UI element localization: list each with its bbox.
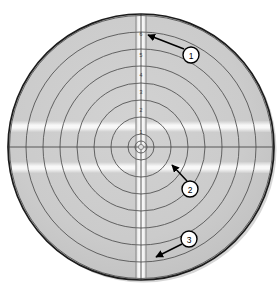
tick-label-3: 3	[140, 89, 143, 95]
tick-label-1: 1	[140, 129, 143, 135]
target-disc-figure: 7 6 5 4 3 2 1 1 2 3	[0, 0, 278, 290]
callout-3-label: 3	[187, 235, 192, 245]
tick-label-6: 6	[140, 31, 143, 37]
tick-label-2: 2	[140, 107, 143, 113]
tick-label-5: 5	[140, 52, 143, 58]
callout-1-label: 1	[189, 51, 194, 61]
center-marker-inner	[138, 144, 143, 149]
callout-2-label: 2	[188, 185, 193, 195]
tick-label-4: 4	[140, 72, 143, 78]
